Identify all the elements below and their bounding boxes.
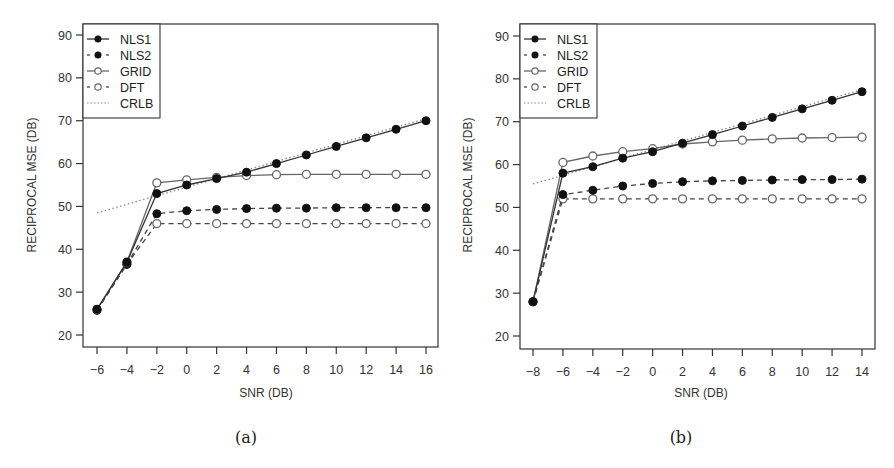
- data-point-filled: [708, 177, 716, 185]
- x-tick-label: 2: [679, 365, 686, 379]
- y-axis-title: RECIPROCAL MSE (DB): [25, 118, 39, 253]
- x-tick-label: 2: [213, 363, 220, 377]
- y-tick-label: 80: [495, 72, 509, 86]
- data-point-filled: [589, 186, 597, 194]
- data-point-filled: [858, 175, 866, 183]
- data-point-filled: [738, 122, 746, 130]
- series-line: [97, 119, 426, 213]
- x-axis-title: SNR (DB): [239, 386, 292, 400]
- series-line: [533, 179, 862, 302]
- x-tick-label: 14: [855, 365, 869, 379]
- x-tick-label: 0: [183, 363, 190, 377]
- data-point-filled: [679, 139, 687, 147]
- data-point-open: [422, 220, 430, 228]
- y-tick-label: 70: [58, 114, 72, 128]
- data-point-filled: [679, 178, 687, 186]
- y-axis-title: RECIPROCAL MSE (DB): [461, 118, 475, 253]
- series-line: [97, 174, 426, 309]
- data-point-filled: [153, 210, 161, 218]
- data-point-open: [738, 136, 746, 144]
- data-point-open: [362, 170, 370, 178]
- data-point-open: [738, 195, 746, 203]
- data-point-open: [798, 134, 806, 142]
- y-tick-label: 90: [58, 29, 72, 43]
- data-point-filled: [768, 176, 776, 184]
- panel-caption: (b): [670, 428, 693, 447]
- data-point-filled: [123, 258, 131, 266]
- data-point-open: [243, 220, 251, 228]
- legend-label: DFT: [120, 81, 145, 95]
- data-point-open: [153, 220, 161, 228]
- data-point-open: [828, 195, 836, 203]
- data-point-filled: [362, 204, 370, 212]
- x-tick-label: −4: [586, 365, 600, 379]
- data-point-filled: [422, 204, 430, 212]
- legend-marker-filled: [95, 36, 102, 43]
- data-point-open: [153, 179, 161, 187]
- data-point-filled: [183, 207, 191, 215]
- series-dft: [529, 195, 866, 306]
- legend-label: NLS2: [557, 49, 588, 63]
- series-line: [533, 199, 862, 302]
- series-dft: [93, 220, 430, 315]
- y-tick-label: 20: [495, 330, 509, 344]
- data-point-open: [679, 195, 687, 203]
- x-tick-label: −6: [90, 363, 104, 377]
- data-point-open: [302, 220, 310, 228]
- data-point-filled: [302, 204, 310, 212]
- x-tick-label: −2: [616, 365, 630, 379]
- data-point-filled: [828, 176, 836, 184]
- x-tick-label: 12: [359, 363, 373, 377]
- data-point-open: [768, 195, 776, 203]
- data-point-filled: [302, 151, 310, 159]
- data-point-filled: [392, 125, 400, 133]
- x-tick-label: 14: [389, 363, 403, 377]
- x-axis-title: SNR (DB): [674, 386, 727, 400]
- data-point-filled: [392, 204, 400, 212]
- data-point-open: [708, 195, 716, 203]
- data-point-open: [858, 195, 866, 203]
- legend-marker-filled: [532, 36, 539, 43]
- series-crlb: [97, 119, 426, 213]
- legend-marker-open: [95, 68, 101, 74]
- series-nls2: [529, 175, 866, 306]
- y-tick-label: 90: [495, 30, 509, 44]
- data-point-filled: [619, 154, 627, 162]
- data-point-filled: [93, 305, 101, 313]
- data-point-filled: [858, 88, 866, 96]
- y-tick-label: 40: [58, 243, 72, 257]
- data-point-filled: [559, 169, 567, 177]
- data-point-open: [183, 220, 191, 228]
- series-nls1: [529, 88, 866, 306]
- x-tick-label: −4: [120, 363, 134, 377]
- data-point-open: [392, 220, 400, 228]
- y-tick-label: 30: [58, 286, 72, 300]
- y-tick-label: 60: [58, 157, 72, 171]
- data-point-filled: [243, 205, 251, 213]
- legend-marker-open: [532, 68, 538, 74]
- x-tick-label: 8: [769, 365, 776, 379]
- data-point-open: [559, 158, 567, 166]
- data-point-filled: [529, 298, 537, 306]
- data-point-open: [332, 170, 340, 178]
- x-tick-label: 16: [419, 363, 433, 377]
- legend: NLS1NLS2GRIDDFTCRLB: [83, 24, 160, 118]
- x-tick-label: 6: [273, 363, 280, 377]
- data-point-open: [332, 220, 340, 228]
- data-point-filled: [332, 142, 340, 150]
- data-point-open: [858, 133, 866, 141]
- data-point-open: [828, 134, 836, 142]
- data-point-filled: [183, 181, 191, 189]
- x-tick-label: −8: [526, 365, 540, 379]
- legend-marker-open: [532, 84, 538, 90]
- legend-label: CRLB: [120, 97, 153, 111]
- data-point-filled: [332, 204, 340, 212]
- data-point-open: [589, 152, 597, 160]
- legend-label: GRID: [557, 65, 588, 79]
- data-point-open: [422, 170, 430, 178]
- data-point-filled: [243, 168, 251, 176]
- data-point-filled: [768, 113, 776, 121]
- legend-marker-filled: [532, 52, 539, 59]
- legend-label: NLS1: [557, 33, 588, 47]
- data-point-filled: [649, 148, 657, 156]
